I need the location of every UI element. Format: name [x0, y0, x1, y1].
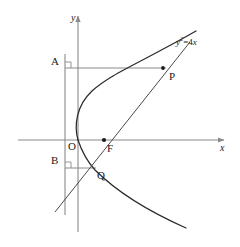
point-p-dot	[161, 66, 165, 70]
equation-variable: x	[193, 37, 197, 47]
label-point-b: B	[51, 155, 58, 166]
label-point-o: O	[68, 141, 76, 152]
label-y-axis: y	[71, 13, 75, 23]
equation-relation: =4	[183, 37, 193, 47]
parabola-lower-branch	[78, 140, 186, 228]
parabola-upper-branch	[76, 31, 196, 140]
label-point-a: A	[51, 56, 59, 67]
label-point-q: Q	[97, 170, 105, 181]
label-point-p: P	[169, 71, 175, 82]
right-angle-marker-b	[65, 162, 71, 168]
focus-point-dot	[102, 138, 106, 142]
figure-canvas	[0, 0, 240, 247]
right-angle-marker-a	[65, 62, 71, 68]
label-parabola-equation: y2=4x	[176, 38, 197, 47]
parabola-figure: A P O F B Q y x y2=4x	[0, 0, 240, 247]
label-x-axis: x	[220, 143, 224, 153]
label-point-f: F	[107, 143, 113, 154]
